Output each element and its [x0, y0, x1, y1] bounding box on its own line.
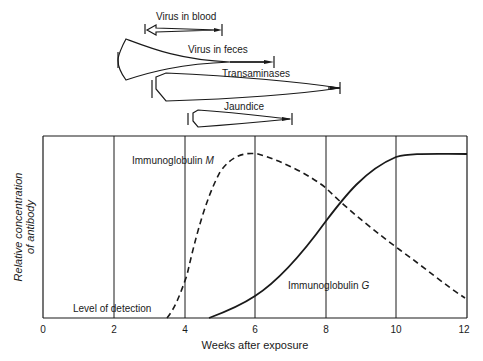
x-axis-ticks: 0 2 4 6 8 10 12	[40, 324, 470, 335]
x-axis-title: Weeks after exposure	[202, 339, 309, 351]
svg-text:10: 10	[390, 324, 402, 335]
label-virus-in-feces: Virus in feces	[188, 44, 248, 55]
label-level-of-detection: Level of detection	[73, 303, 151, 314]
plot-area	[43, 136, 467, 318]
timeline-transaminases: Transaminases	[152, 68, 340, 101]
svg-text:2: 2	[111, 324, 117, 335]
label-jaundice: Jaundice	[224, 101, 264, 112]
svg-text:0: 0	[40, 324, 46, 335]
svg-text:8: 8	[323, 324, 329, 335]
label-igm: Immunoglobulin M	[132, 155, 214, 166]
label-transaminases: Transaminases	[222, 68, 290, 79]
svg-text:6: 6	[252, 324, 258, 335]
igg-curve	[209, 154, 467, 318]
svg-text:of antibody: of antibody	[24, 199, 36, 254]
label-virus-in-blood: Virus in blood	[156, 11, 216, 22]
timeline-virus-in-blood: Virus in blood	[145, 11, 222, 36]
label-igg: Immunoglobulin G	[288, 280, 369, 291]
y-axis-title: Relative concentration of antibody	[12, 173, 36, 282]
svg-text:12: 12	[458, 324, 470, 335]
timeline-jaundice: Jaundice	[188, 101, 292, 127]
svg-text:Relative concentration: Relative concentration	[12, 173, 24, 282]
antibody-response-chart: Virus in blood Virus in feces Transamina…	[0, 0, 483, 361]
svg-text:4: 4	[182, 324, 188, 335]
